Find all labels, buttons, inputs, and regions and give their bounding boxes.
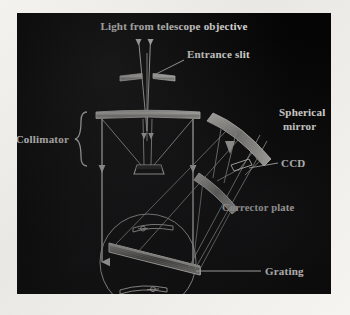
collimator-lens	[96, 110, 200, 118]
grating	[109, 243, 200, 275]
label-collimator: Collimator	[17, 133, 69, 145]
entrance-slit-leader	[154, 60, 184, 75]
label-corrector-plate: Corrector plate	[222, 202, 294, 213]
fold-mirror	[134, 165, 164, 174]
label-ccd: CCD	[281, 157, 305, 169]
label-light-source: Light from telescope objective	[100, 20, 247, 32]
grating-clamp-bottom	[120, 286, 167, 294]
collimator-brace	[75, 112, 87, 166]
label-spherical-mirror-line2: mirror	[283, 120, 316, 132]
label-spherical-mirror-line1: Spherical	[279, 106, 325, 118]
diagram-panel: Light from telescope objective Entrance …	[17, 13, 331, 294]
grating-clamp-top	[133, 224, 173, 232]
diffracted-beam	[113, 126, 267, 269]
ccd-converge-arrow	[225, 141, 235, 154]
spectrograph-diagram: Light from telescope objective Entrance …	[17, 13, 331, 294]
entrance-slit	[120, 74, 175, 82]
label-entrance-slit: Entrance slit	[187, 48, 250, 60]
figure-root: Light from telescope objective Entrance …	[0, 0, 350, 315]
label-grating: Grating	[265, 265, 304, 277]
